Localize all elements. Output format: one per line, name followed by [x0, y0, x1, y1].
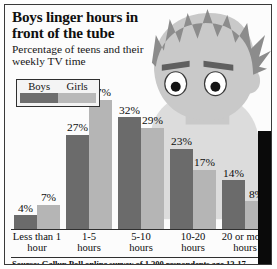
page-title: Boys linger hours in front of the tube	[12, 9, 164, 40]
chart-legend: Boys Girls	[16, 79, 100, 107]
bar-group: 32%29%	[115, 89, 167, 229]
bar-rect	[14, 215, 37, 229]
legend-swatches	[20, 93, 96, 103]
bar-group: 23%17%	[167, 89, 219, 229]
bar-rect	[89, 100, 112, 230]
bar-boys-2: 32%	[118, 89, 141, 229]
source-divider	[11, 257, 266, 258]
legend-label-boys: Boys	[28, 81, 50, 92]
chart-plot-area: 4%7%27%37%32%29%23%17%14%8%	[11, 89, 271, 229]
bar-value-label: 23%	[171, 136, 192, 147]
infographic-frame: Boys linger hours in front of the tube P…	[4, 4, 272, 265]
x-axis-labels: Less than 1hour1-5hours5-10hours10-20hou…	[11, 231, 271, 257]
x-axis-line	[11, 229, 266, 230]
bar-value-label: 14%	[223, 168, 244, 179]
legend-swatch-boys	[20, 93, 58, 103]
x-axis-label: 5-10hours	[115, 231, 167, 257]
bar-value-label: 4%	[18, 203, 33, 214]
x-axis-label: 10-20hours	[167, 231, 219, 257]
bar-rect	[66, 135, 89, 230]
bar-group: 4%7%	[11, 89, 63, 229]
x-axis-label: 1-5hours	[63, 231, 115, 257]
bar-group: 27%37%	[63, 89, 115, 229]
x-axis-label: Less than 1hour	[11, 231, 63, 257]
bar-value-label: 17%	[194, 157, 215, 168]
bar-rect	[118, 117, 141, 229]
bar-rect	[193, 170, 216, 230]
bar-rect	[37, 205, 60, 230]
bar-value-label: 32%	[119, 105, 140, 116]
bar-rect	[141, 128, 164, 230]
infographic-root: Boys linger hours in front of the tube P…	[0, 0, 277, 269]
bar-girls-1: 37%	[89, 89, 112, 229]
bar-girls-2: 29%	[141, 89, 164, 229]
bar-boys-1: 27%	[66, 89, 89, 229]
headline-block: Boys linger hours in front of the tube P…	[12, 9, 164, 68]
legend-label-girls: Girls	[67, 81, 88, 92]
bar-girls-3: 17%	[193, 89, 216, 229]
bar-boys-4: 14%	[222, 89, 245, 229]
bar-groups: 4%7%27%37%32%29%23%17%14%8%	[11, 89, 271, 229]
page-subtitle: Percentage of teens and their weekly TV …	[12, 43, 164, 67]
bar-boys-3: 23%	[170, 89, 193, 229]
decorative-dark-band	[258, 131, 271, 264]
legend-swatch-girls	[58, 93, 96, 103]
bar-girls-0: 7%	[37, 89, 60, 229]
bar-value-label: 27%	[67, 122, 88, 133]
bar-rect	[170, 149, 193, 230]
legend-labels: Boys Girls	[20, 81, 96, 92]
bar-value-label: 29%	[142, 115, 163, 126]
bar-boys-0: 4%	[14, 89, 37, 229]
bar-value-label: 7%	[41, 192, 56, 203]
bar-rect	[222, 180, 245, 229]
source-note: Source: Gallup Poll online survey of 1,2…	[12, 259, 266, 265]
